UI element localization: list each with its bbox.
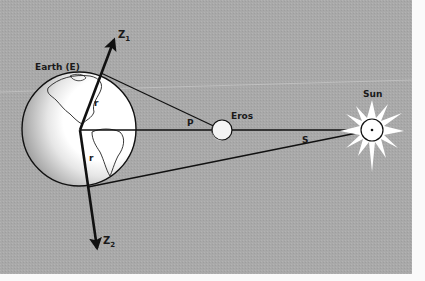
radius-label-bottom: r — [89, 153, 94, 163]
eros — [212, 120, 232, 141]
z2-letter: Z — [103, 235, 110, 246]
z1-letter: Z — [118, 29, 125, 40]
eros-parallax-diagram: Earth (E) Eros Sun Z1 Z2 r r P S — [0, 0, 425, 281]
eros-body — [212, 120, 232, 140]
earth-label: Earth (E) — [35, 62, 80, 72]
radius-label-top: r — [94, 98, 99, 108]
parallax-p-label: P — [187, 118, 194, 128]
z2-subscript: 2 — [110, 241, 115, 249]
sun-center-dot — [371, 129, 374, 132]
distance-s-label: S — [302, 135, 308, 145]
z1-subscript: 1 — [125, 35, 130, 43]
eros-label: Eros — [231, 111, 253, 121]
sun-label: Sun — [363, 89, 382, 99]
